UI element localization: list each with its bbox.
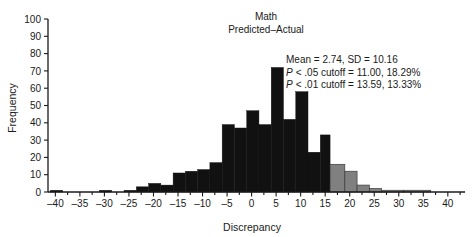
x-tick-label: 20 — [344, 198, 356, 209]
x-tick-label: –25 — [121, 198, 138, 209]
x-tick-label: 0 — [249, 198, 255, 209]
histogram-bar — [296, 92, 308, 192]
y-axis-title: Frequency — [6, 82, 18, 132]
histogram-bar — [320, 135, 330, 192]
histogram-bar — [173, 173, 185, 192]
x-tick-labels: –40–35–30–25–20–15–10–50510152025303540 — [47, 198, 454, 209]
x-tick-label: 25 — [369, 198, 381, 209]
y-tick-label: 30 — [30, 135, 42, 146]
histogram-bar — [271, 67, 283, 192]
chart-title: Math — [255, 11, 277, 22]
y-tick-label: 10 — [30, 169, 42, 180]
histogram-bar — [136, 187, 148, 192]
histogram-bar — [308, 152, 320, 192]
x-tick-label: –10 — [194, 198, 211, 209]
stats-mean-sd: Mean = 2.74, SD = 10.16 — [286, 54, 398, 65]
y-tick-label: 50 — [30, 100, 42, 111]
histogram-bar — [185, 171, 197, 192]
x-tick-label: –5 — [221, 198, 233, 209]
y-tick-label: 70 — [30, 66, 42, 77]
y-tick-label: 60 — [30, 83, 42, 94]
histogram-bar — [247, 111, 259, 192]
histogram-bar — [149, 183, 161, 192]
chart-subtitle: Predicted–Actual — [228, 24, 304, 35]
stats-cutoff-05: P< .05 cutoff = 11.00, 18.29% — [286, 67, 421, 78]
x-tick-label: 15 — [320, 198, 332, 209]
y-tick-label: 0 — [35, 187, 41, 198]
y-tick-labels: 0102030405060708090100 — [24, 14, 41, 198]
histogram-bar — [234, 128, 246, 192]
stats-cutoff-01: P< .01 cutoff = 13.59, 13.33% — [286, 79, 421, 90]
x-tick-label: –15 — [170, 198, 187, 209]
x-tick-label: –20 — [145, 198, 162, 209]
y-tick-label: 90 — [30, 31, 42, 42]
x-tick-label: 30 — [393, 198, 405, 209]
histogram-bar — [330, 164, 345, 192]
x-tick-label: 40 — [442, 198, 454, 209]
x-tick-label: 10 — [295, 198, 307, 209]
y-tick-label: 20 — [30, 152, 42, 163]
chart-canvas: –40–35–30–25–20–15–10–50510152025303540 … — [0, 0, 475, 237]
y-tick-label: 80 — [30, 48, 42, 59]
y-tick-label: 100 — [24, 14, 41, 25]
x-axis-title: Discrepancy — [223, 221, 282, 233]
histogram-bar — [259, 125, 271, 192]
x-tick-label: –35 — [72, 198, 89, 209]
histogram-bar — [198, 170, 210, 192]
x-tick-label: 5 — [273, 198, 279, 209]
x-tick-label: 35 — [418, 198, 430, 209]
statistics-annotations: Mean = 2.74, SD = 10.16P< .05 cutoff = 1… — [286, 54, 421, 90]
histogram-bar — [283, 119, 295, 192]
histogram-bar — [161, 185, 173, 192]
histogram-bar — [345, 171, 357, 192]
histogram-figure: –40–35–30–25–20–15–10–50510152025303540 … — [0, 0, 475, 237]
x-tick-label: –40 — [47, 198, 64, 209]
histogram-bar — [222, 125, 234, 192]
histogram-bar — [357, 185, 369, 192]
y-tick-label: 40 — [30, 117, 42, 128]
histogram-bar — [210, 163, 222, 192]
x-tick-label: –30 — [96, 198, 113, 209]
